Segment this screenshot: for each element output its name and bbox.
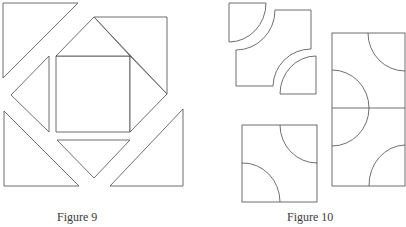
- small-triangle-left: [11, 56, 49, 132]
- joined-blocks: [332, 33, 405, 186]
- figure-9-diagram: [0, 0, 406, 227]
- center-square: [56, 56, 130, 132]
- assembled-square-block: [242, 125, 317, 202]
- small-triangle-bottom: [57, 140, 130, 178]
- quarter-circle-piece-top: [229, 3, 266, 42]
- figure-10-caption: Figure 10: [287, 210, 333, 225]
- quarter-circle-piece-bottom: [280, 56, 316, 94]
- figure-9-caption: Figure 9: [57, 210, 97, 225]
